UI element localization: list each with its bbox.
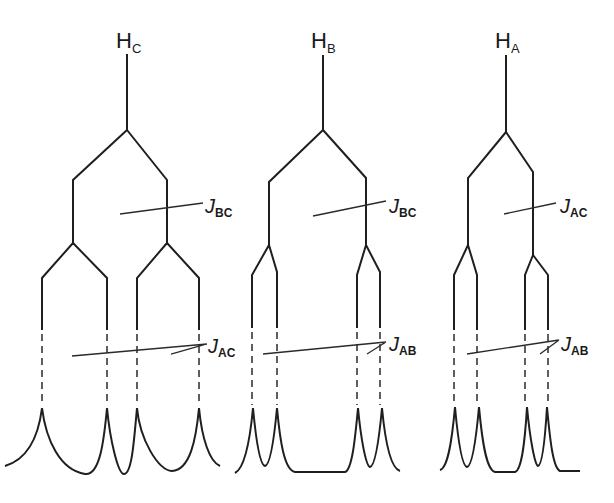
tree-hc-jbc-label: JBC	[204, 195, 233, 220]
splitting-tree-diagram: HC JBC JAC HB JBC JAB HA JAC JAB	[0, 0, 614, 503]
tree-hc: HC JBC JAC	[5, 28, 236, 474]
tree-ha-jac-pointer	[504, 203, 556, 214]
tree-hc-first-split	[73, 54, 167, 243]
tree-hc-second-split	[42, 243, 199, 330]
tree-hb-jab-pointer	[263, 342, 386, 354]
tree-hb-first-split	[269, 55, 366, 245]
tree-ha-second-split	[454, 245, 548, 330]
tree-hc-title: HC	[116, 28, 141, 56]
tree-ha-projection-lines	[454, 334, 548, 405]
tree-hb-spectrum	[235, 408, 400, 473]
tree-ha-jab-pointer	[467, 340, 559, 354]
tree-hc-jac-pointer	[72, 344, 207, 356]
tree-ha-jab-label: JAB	[560, 333, 589, 358]
tree-hb: HB JBC JAB	[235, 28, 417, 473]
tree-hc-jac-label: JAC	[207, 335, 236, 360]
tree-hb-title: HB	[311, 28, 336, 56]
tree-hb-projection-lines	[252, 332, 380, 405]
tree-hb-jbc-label: JBC	[388, 195, 417, 220]
tree-ha-jac-label: JAC	[559, 195, 588, 220]
tree-hc-jbc-pointer	[120, 203, 203, 214]
tree-ha-title: HA	[495, 28, 520, 56]
tree-hb-jbc-pointer	[313, 201, 386, 216]
tree-hb-jab-label: JAB	[388, 333, 417, 358]
tree-hc-spectrum	[5, 408, 220, 474]
tree-hc-projection-lines	[42, 334, 199, 405]
tree-ha: HA JAC JAB	[440, 28, 589, 472]
tree-ha-spectrum	[440, 407, 580, 472]
tree-hb-second-split	[252, 245, 380, 328]
tree-ha-first-split	[468, 55, 533, 255]
